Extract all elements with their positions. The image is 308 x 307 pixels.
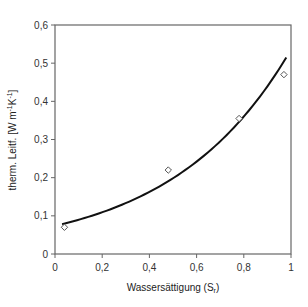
x-tick-label: 0,2 <box>95 262 109 273</box>
y-axis-label: therm. Leitf. [W m-1K-1] <box>6 89 18 190</box>
y-tick-label: 0,4 <box>34 96 48 107</box>
x-axis-ticks: 00,20,40,60,81 <box>52 254 294 273</box>
x-tick-label: 1 <box>288 262 294 273</box>
model-curve <box>62 57 286 224</box>
data-point-diamond-icon <box>61 224 67 230</box>
y-tick-label: 0 <box>42 249 48 260</box>
plot-area-frame <box>55 25 291 254</box>
x-axis-label: Wassersättigung (Sr) <box>127 282 220 294</box>
data-point-diamond-icon <box>165 167 171 173</box>
y-tick-label: 0,3 <box>34 134 48 145</box>
data-points <box>61 71 287 230</box>
x-tick-label: 0 <box>52 262 58 273</box>
y-tick-label: 0,1 <box>34 210 48 221</box>
y-tick-label: 0,6 <box>34 20 48 31</box>
x-tick-label: 0,6 <box>190 262 204 273</box>
chart: 00,10,20,30,40,50,6 00,20,40,60,81 Wasse… <box>0 0 308 307</box>
x-tick-label: 0,4 <box>142 262 156 273</box>
x-tick-label: 0,8 <box>237 262 251 273</box>
y-axis-ticks: 00,10,20,30,40,50,6 <box>34 20 55 260</box>
y-tick-label: 0,5 <box>34 58 48 69</box>
data-point-diamond-icon <box>281 71 287 77</box>
y-tick-label: 0,2 <box>34 172 48 183</box>
